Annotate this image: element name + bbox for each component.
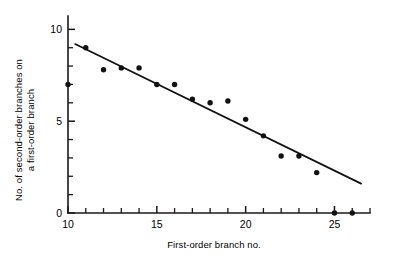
axis-tick-labels: 101520250510 — [50, 23, 340, 230]
data-point — [350, 210, 355, 215]
y-axis-label-line-1: No. of second-order branches on — [13, 59, 24, 201]
x-tick-label: 20 — [240, 218, 252, 230]
data-point — [243, 117, 248, 122]
data-point — [261, 133, 266, 138]
data-point — [172, 82, 177, 87]
x-tick-label: 10 — [62, 218, 74, 230]
data-point — [296, 153, 301, 158]
data-point — [332, 210, 337, 215]
data-point — [101, 67, 106, 72]
x-tick-label: 15 — [151, 218, 163, 230]
y-tick-label: 5 — [56, 115, 62, 127]
axis-ticks — [68, 29, 370, 213]
y-axis-label-line-2: a first-order branch — [25, 89, 36, 171]
y-tick-label: 10 — [50, 23, 62, 35]
scatter-plot: 101520250510 First-order branch no. No. … — [0, 0, 394, 257]
data-point — [225, 98, 230, 103]
data-point — [314, 170, 319, 175]
y-tick-label: 0 — [56, 207, 62, 219]
figure-container: 101520250510 First-order branch no. No. … — [0, 0, 394, 257]
data-point — [154, 82, 159, 87]
x-tick-label: 25 — [329, 218, 341, 230]
data-points — [65, 45, 355, 216]
data-point — [65, 82, 70, 87]
data-point — [83, 45, 88, 50]
x-axis-label: First-order branch no. — [167, 239, 261, 250]
data-point — [190, 96, 195, 101]
data-point — [207, 100, 212, 105]
data-point — [136, 65, 141, 70]
trend-line — [75, 44, 361, 184]
data-point — [119, 65, 124, 70]
data-point — [278, 153, 283, 158]
regression-line — [75, 44, 361, 184]
